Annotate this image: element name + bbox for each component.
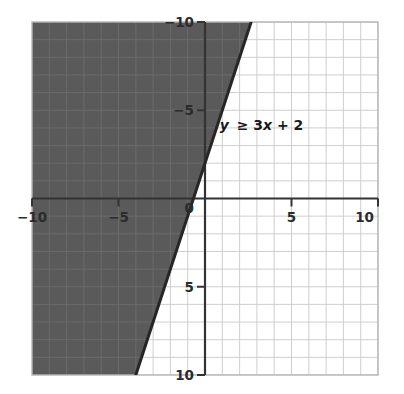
graph-canvas: −10−5510 1050−5−10 y ≥ 3x + 2 <box>0 0 404 394</box>
y-tick-label: −5 <box>173 102 194 118</box>
inequality-relation: ≥ <box>232 117 253 133</box>
y-tick-label: 10 <box>175 367 194 383</box>
x-tick-label: −10 <box>17 209 47 225</box>
inequality-variable: y <box>220 117 230 133</box>
inequality-coefficient: 3 <box>253 117 263 133</box>
inequality-constant: + 2 <box>272 117 303 133</box>
y-tick-label: 5 <box>185 279 194 295</box>
inequality-graph-figure: −10−5510 1050−5−10 y ≥ 3x + 2 <box>0 0 404 394</box>
inequality-label: y ≥ 3x + 2 <box>220 117 304 133</box>
x-tick-label: 5 <box>287 209 296 225</box>
origin-label: 0 <box>185 200 194 216</box>
y-tick-label: −10 <box>164 14 194 30</box>
x-tick-label: 10 <box>355 209 374 225</box>
x-tick-label: −5 <box>108 209 129 225</box>
